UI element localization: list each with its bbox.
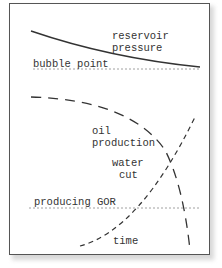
reservoir-pressure-label-line2: pressure <box>112 42 162 54</box>
water-cut-label-line2: cut <box>119 169 138 181</box>
oil-production-label-line2: production <box>92 137 155 149</box>
water-cut-label-line1: water <box>112 157 144 169</box>
oil-production-curve <box>31 97 190 250</box>
diagram-canvas <box>0 0 222 268</box>
reservoir-pressure-label-line1: reservoir <box>112 30 169 42</box>
producing-gor-label: producing GOR <box>34 196 116 208</box>
oil-production-label-line1: oil <box>92 125 111 137</box>
time-label: time <box>113 235 138 247</box>
bubble-point-label: bubble point <box>33 58 109 70</box>
